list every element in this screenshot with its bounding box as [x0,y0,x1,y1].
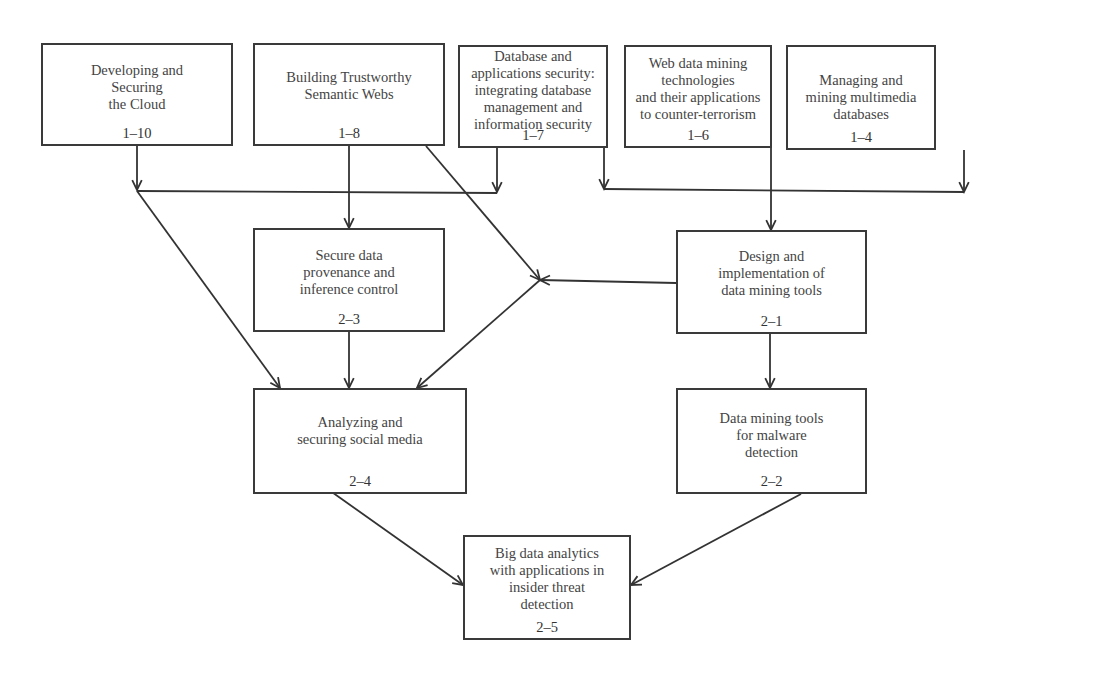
dependency-diagram: Developing and Securing the Cloud1–10Bui… [0,0,1114,680]
node-code: 2–5 [465,619,629,635]
node-1-7: Database and applications security: inte… [458,45,608,148]
node-code: 1–4 [788,129,934,145]
node-label: Managing and mining multimedia databases [792,72,930,123]
node-code: 2–4 [255,473,465,489]
edge-connector [540,280,676,283]
node-code: 1–6 [626,127,770,143]
node-code: 1–10 [43,125,231,141]
node-1-10: Developing and Securing the Cloud1–10 [41,43,233,146]
node-2-1: Design and implementation of data mining… [676,230,867,334]
edge-connector [604,189,964,192]
node-label: Developing and Securing the Cloud [47,62,227,113]
node-label: Web data mining technologies and their a… [630,55,766,123]
node-label: Database and applications security: inte… [464,48,602,133]
node-1-6: Web data mining technologies and their a… [624,45,772,148]
edge-connector [631,494,801,585]
node-1-4: Managing and mining multimedia databases… [786,45,936,150]
node-label: Secure data provenance and inference con… [259,247,439,298]
node-label: Building Trustworthy Semantic Webs [259,69,439,103]
node-2-3: Secure data provenance and inference con… [253,228,445,332]
node-code: 2–2 [678,473,865,489]
node-label: Data mining tools for malware detection [682,410,861,461]
node-code: 1–8 [255,125,443,141]
edge-connector [329,490,463,585]
node-2-4: Analyzing and securing social media2–4 [253,388,467,494]
edge-connector [137,191,497,193]
node-label: Big data analytics with applications in … [469,545,625,613]
node-code: 2–3 [255,311,443,327]
node-label: Design and implementation of data mining… [682,248,861,299]
node-2-2: Data mining tools for malware detection2… [676,388,867,494]
node-1-8: Building Trustworthy Semantic Webs1–8 [253,43,445,146]
node-code: 2–1 [678,313,865,329]
node-2-5: Big data analytics with applications in … [463,535,631,640]
node-label: Analyzing and securing social media [259,414,461,448]
node-code: 1–7 [460,127,606,143]
